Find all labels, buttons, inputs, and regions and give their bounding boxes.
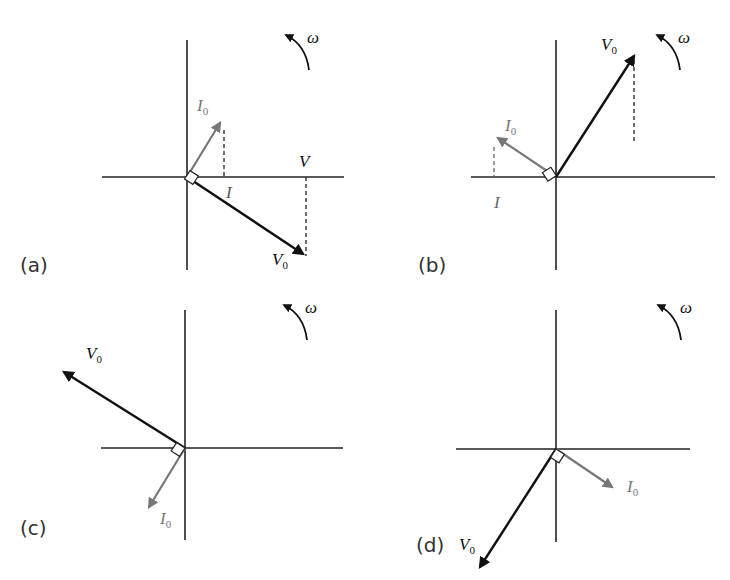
omega-label: ω bbox=[680, 298, 692, 317]
I0-label: I0 bbox=[159, 509, 172, 530]
rotation-arrow-icon bbox=[286, 35, 309, 70]
I0-label: I0 bbox=[196, 96, 209, 117]
voltage-phasor-V0 bbox=[187, 177, 303, 254]
right-angle-marker bbox=[171, 443, 185, 457]
panel-label-c: (c) bbox=[20, 516, 47, 540]
panel-a: I0 I V V0 ω (a) bbox=[20, 28, 344, 277]
panel-label-d: (d) bbox=[416, 533, 444, 557]
panel-label-b: (b) bbox=[418, 253, 446, 277]
current-phasor-I0 bbox=[187, 123, 220, 177]
V0-label: V0 bbox=[459, 535, 475, 556]
panel-d: I0 V0 ω (d) bbox=[416, 298, 692, 567]
voltage-phasor-V0 bbox=[64, 372, 185, 448]
omega-label: ω bbox=[307, 28, 319, 47]
right-angle-marker bbox=[551, 449, 565, 463]
panel-c: I0 V0 ω (c) bbox=[20, 298, 343, 540]
omega-label: ω bbox=[305, 298, 317, 317]
panel-label-a: (a) bbox=[20, 253, 48, 277]
V0-label: V0 bbox=[272, 250, 288, 271]
I-projection-label: I bbox=[225, 183, 233, 202]
V0-label: V0 bbox=[601, 35, 617, 56]
omega-label: ω bbox=[678, 28, 690, 47]
phasor-figure: I0 I V V0 ω (a) I0 I V0 ω (b) I0 V0 ω (c… bbox=[0, 0, 730, 580]
V0-label: V0 bbox=[86, 344, 102, 365]
rotation-arrow-icon bbox=[657, 35, 680, 70]
I0-label: I0 bbox=[626, 477, 639, 498]
panel-b: I0 I V0 ω (b) bbox=[418, 28, 715, 277]
I-projection-label: I bbox=[493, 193, 501, 212]
rotation-arrow-icon bbox=[658, 305, 681, 340]
rotation-arrow-icon bbox=[284, 305, 307, 340]
I0-label: I0 bbox=[504, 116, 517, 137]
voltage-phasor-V0 bbox=[556, 56, 634, 177]
V-projection-label: V bbox=[299, 152, 312, 171]
voltage-phasor-V0 bbox=[480, 449, 556, 567]
